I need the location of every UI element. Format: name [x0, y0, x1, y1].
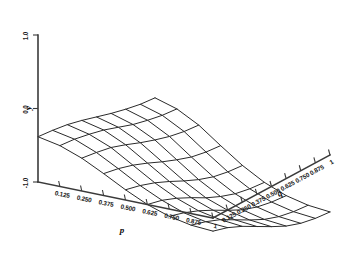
mesh-line-const-q	[155, 98, 330, 212]
p-tick-label: 0.500	[120, 203, 137, 213]
p-tick-label: 0.750	[164, 212, 181, 222]
q-tick-mark	[329, 150, 331, 156]
q-tick-label: 1	[328, 158, 335, 166]
mesh-line-const-q	[111, 113, 286, 226]
q-tick-mark	[285, 173, 287, 179]
q-tick-mark	[255, 189, 257, 195]
q-tick-mark	[299, 165, 301, 171]
p-axis-title: p	[119, 225, 125, 235]
q-tick-mark	[314, 157, 316, 163]
y-tick-label: 1.0	[22, 31, 29, 40]
y-tick-label: -1.0	[22, 177, 29, 188]
p-tick-label: 0.250	[76, 194, 93, 204]
wireframe-mesh	[38, 98, 330, 231]
p-tick-label: 0.875	[186, 216, 203, 226]
p-tick-label: 1	[213, 222, 218, 230]
surface-plot-figure: 1.00.0-1.0 0.1250.2500.3750.5000.6250.75…	[0, 0, 341, 258]
p-tick-label: 0.125	[54, 189, 71, 199]
surface-plot-canvas: 1.00.0-1.0 0.1250.2500.3750.5000.6250.75…	[0, 0, 341, 258]
p-tick-label: 0.375	[98, 198, 115, 208]
